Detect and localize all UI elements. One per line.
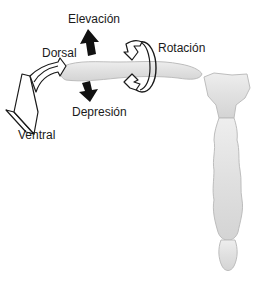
depression-label: Depresión: [72, 106, 127, 118]
clavicle-movements-diagram: Elevación Dorsal Rotación Depresión Vent…: [0, 0, 265, 282]
dorsal-ventral-arrow-icon: [6, 58, 66, 134]
sternum-body: [213, 118, 242, 240]
elevation-arrow-icon: [80, 29, 99, 56]
depression-arrow-icon: [79, 81, 98, 102]
rotation-label: Rotación: [158, 42, 205, 54]
ventral-label: Ventral: [18, 129, 55, 141]
manubrium: [204, 73, 250, 118]
dorsal-label: Dorsal: [42, 47, 77, 59]
elevation-label: Elevación: [68, 13, 120, 25]
xiphoid-process: [219, 240, 237, 271]
